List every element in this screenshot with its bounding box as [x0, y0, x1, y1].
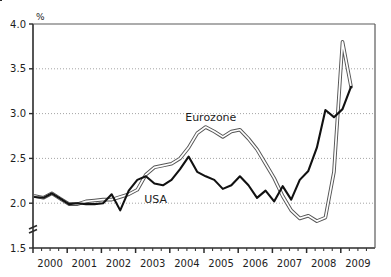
y-axis-tick-label: 3.0 — [10, 108, 26, 119]
y-axis-tick-label: 1.5 — [10, 243, 26, 254]
chart-page: 4.03.53.02.52.01.5 200020012002200320042… — [0, 0, 391, 277]
y-axis-tick-label: 2.5 — [10, 153, 26, 164]
x-axis-tick-label: 2008 — [311, 258, 336, 269]
line-chart: 4.03.53.02.52.01.5 200020012002200320042… — [0, 0, 391, 277]
y-axis-tick-label: 4.0 — [10, 19, 26, 30]
y-axis-tick-labels: 4.03.53.02.52.01.5 — [10, 19, 26, 254]
y-axis-tick-label: 2.0 — [10, 198, 26, 209]
y-axis-unit-label: % — [36, 12, 45, 22]
x-axis-tick-label: 2007 — [277, 258, 302, 269]
series-line — [35, 87, 351, 211]
x-axis-tick-label: 2005 — [208, 258, 233, 269]
x-axis-tick-label: 2000 — [37, 258, 62, 269]
x-axis-tick-labels: 2000200120022003200420052006200720082009 — [37, 258, 370, 269]
x-axis-tick-label: 2009 — [345, 258, 370, 269]
axis-lines — [33, 24, 375, 248]
series-label-eurozone: Eurozone — [185, 111, 236, 124]
x-axis-tick-label: 2004 — [174, 258, 199, 269]
y-axis-tick-label: 3.5 — [10, 63, 26, 74]
series-label-usa: USA — [144, 193, 167, 206]
gridlines — [33, 69, 375, 203]
x-axis-tick-label: 2001 — [72, 258, 97, 269]
x-axis-tick-label: 2002 — [106, 258, 131, 269]
x-axis-tick-label: 2003 — [140, 258, 165, 269]
x-axis-tick-label: 2006 — [243, 258, 268, 269]
